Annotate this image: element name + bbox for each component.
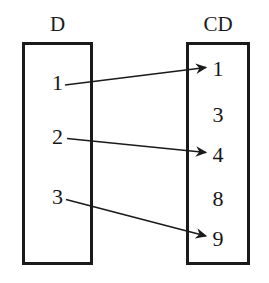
right-set-label: CD	[186, 14, 250, 35]
left-set-element-2: 2	[22, 126, 93, 148]
left-set-label: D	[22, 14, 93, 35]
right-set-element-9: 9	[186, 228, 250, 250]
right-set-element-8: 8	[186, 188, 250, 210]
right-set-element-4: 4	[186, 144, 250, 166]
function-mapping-diagram: D CD 1 2 3 1 3 4 8 9	[0, 0, 269, 283]
left-set-element-1: 1	[22, 72, 93, 94]
right-set-element-3: 3	[186, 104, 250, 126]
left-set-element-3: 3	[22, 186, 93, 208]
right-set-element-1: 1	[186, 58, 250, 80]
